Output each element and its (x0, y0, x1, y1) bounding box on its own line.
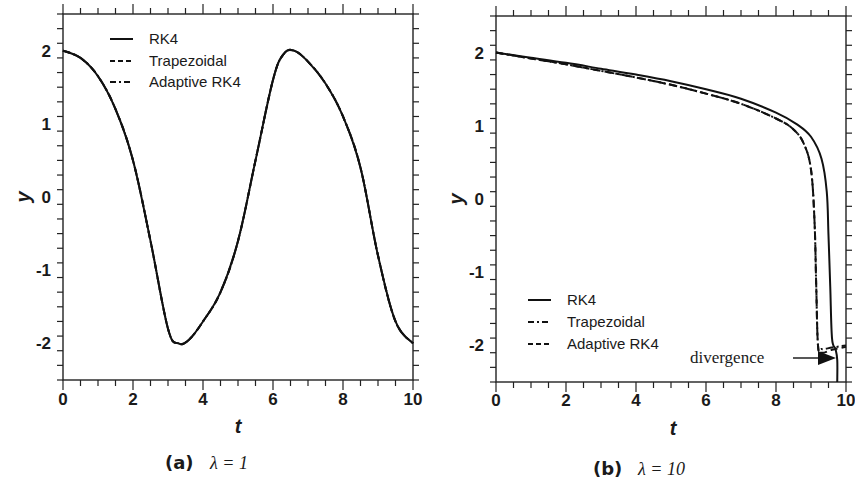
divergence-annotation: divergence (690, 348, 836, 367)
ytick-label: 1 (42, 115, 51, 134)
xtick-label: 10 (404, 390, 423, 409)
legend-label-trapezoidal: Trapezoidal (567, 313, 645, 330)
panel-b-legend: RK4 Trapezoidal Adaptive RK4 (528, 291, 659, 352)
ytick-label: 2 (475, 44, 484, 63)
panel-a-y-axis-label: y (12, 191, 34, 204)
panel-a-xtick-labels: 0 2 4 6 8 10 (58, 390, 422, 409)
ytick-label: 0 (42, 188, 51, 207)
curve-rk4 (63, 50, 413, 344)
xtick-label: 0 (58, 390, 67, 409)
ytick-label: 0 (475, 190, 484, 209)
panel-a-curves (63, 50, 413, 344)
xtick-label: 2 (561, 391, 570, 410)
caption-equation: λ = 10 (637, 459, 685, 479)
panel-a-lambda-1: 0 2 4 6 8 10 2 1 0 -1 -2 t y RK4 Trapezo… (12, 4, 422, 473)
legend-label-rk4: RK4 (149, 30, 178, 47)
ytick-label: -1 (469, 263, 484, 282)
panel-b-y-axis-label: y (445, 193, 467, 206)
legend-label-adaptive-rk4: Adaptive RK4 (149, 73, 241, 90)
figure: 0 2 4 6 8 10 2 1 0 -1 -2 t y RK4 Trapezo… (0, 0, 855, 494)
caption-tag: (a) (165, 452, 194, 473)
xtick-label: 0 (491, 391, 500, 410)
caption-tag: (b) (593, 458, 622, 479)
panel-b-ytick-labels: 2 1 0 -1 -2 (469, 44, 484, 355)
legend-label-adaptive-rk4: Adaptive RK4 (567, 335, 659, 352)
ytick-label: -2 (36, 334, 51, 353)
ytick-label: -1 (36, 261, 51, 280)
panel-a-ytick-labels: 2 1 0 -1 -2 (36, 42, 51, 353)
xtick-label: 8 (338, 390, 347, 409)
caption-equation: λ = 1 (209, 453, 248, 473)
curve-rk4 (496, 53, 837, 382)
curve-trapezoidal (496, 53, 846, 352)
panel-b-ticks (490, 6, 852, 392)
xtick-label: 8 (771, 391, 780, 410)
panel-a-caption: (a) λ = 1 (165, 452, 248, 473)
curve-trapezoidal (63, 50, 413, 344)
legend-label-trapezoidal: Trapezoidal (149, 52, 227, 69)
curve-adaptive-rk4 (496, 53, 846, 354)
panel-b-caption: (b) λ = 10 (593, 458, 685, 479)
panel-a-frame (63, 14, 413, 380)
panel-b-xtick-labels: 0 2 4 6 8 10 (491, 391, 855, 410)
panel-b-lambda-10: 0 2 4 6 8 10 2 1 0 -1 -2 t y RK4 Trapezo… (445, 6, 855, 479)
ytick-label: 2 (42, 42, 51, 61)
xtick-label: 6 (268, 390, 277, 409)
ytick-label: 1 (475, 117, 484, 136)
panel-b-frame (496, 16, 846, 382)
xtick-label: 4 (198, 390, 208, 409)
divergence-label: divergence (690, 348, 764, 367)
panel-b-curves (496, 53, 846, 382)
panel-a-legend: RK4 Trapezoidal Adaptive RK4 (110, 30, 241, 90)
xtick-label: 4 (631, 391, 641, 410)
xtick-label: 2 (128, 390, 137, 409)
xtick-label: 6 (701, 391, 710, 410)
panel-b-x-axis-label: t (670, 417, 678, 439)
panel-a-x-axis-label: t (235, 415, 243, 437)
legend-label-rk4: RK4 (567, 291, 596, 308)
ytick-label: -2 (469, 336, 484, 355)
arrow-head-icon (818, 351, 836, 365)
curve-adaptive-rk4 (63, 50, 413, 344)
xtick-label: 10 (837, 391, 855, 410)
